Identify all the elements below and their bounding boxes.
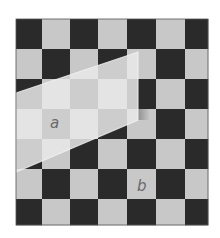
board-cell (127, 139, 156, 169)
checkerboard-figure: a b (0, 0, 220, 238)
board-cell (156, 199, 185, 225)
board-cell (42, 169, 70, 199)
board-cell (127, 199, 156, 225)
board-cell (185, 139, 208, 169)
board-cell (70, 169, 98, 199)
board-cell (16, 169, 42, 199)
board-cell (185, 199, 208, 225)
board-cell (156, 49, 185, 79)
board-cell (98, 169, 127, 199)
board-cell (70, 19, 98, 49)
board-cell (156, 19, 185, 49)
board-cell (98, 19, 127, 49)
board-cell (98, 139, 127, 169)
board-cell (185, 109, 208, 139)
board-cell (16, 19, 42, 49)
board-cell (185, 19, 208, 49)
lit-board-cell (98, 79, 127, 109)
board-cell (185, 79, 208, 109)
board-cell (42, 19, 70, 49)
board-cell (42, 199, 70, 225)
board-cell (16, 199, 42, 225)
lit-board-cell (70, 109, 98, 139)
board-cell (185, 169, 208, 199)
label-a: a (50, 116, 59, 131)
board-cell (185, 49, 208, 79)
label-b: b (137, 179, 147, 194)
lit-board-cell (42, 79, 70, 109)
board-cell (42, 49, 70, 79)
board-cell (98, 199, 127, 225)
board-cell (156, 109, 185, 139)
soft-shadow (138, 82, 150, 120)
board-cell (156, 79, 185, 109)
lit-board-cell (16, 109, 42, 139)
board-cell (70, 199, 98, 225)
board-cell (156, 139, 185, 169)
board-cell (127, 19, 156, 49)
board-cell (16, 49, 42, 79)
lit-board-cell (70, 79, 98, 109)
board-cell (156, 169, 185, 199)
checkerboard-board (0, 0, 220, 238)
